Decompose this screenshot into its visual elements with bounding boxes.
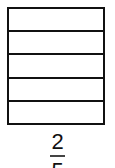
fraction-bar <box>50 155 65 157</box>
model-section-2 <box>9 32 103 55</box>
model-section-4 <box>9 79 103 102</box>
model-section-5 <box>9 102 103 123</box>
fraction-label: 2 5 <box>0 131 115 168</box>
model-section-3 <box>9 55 103 78</box>
fraction-numerator: 2 <box>0 131 115 153</box>
fraction-denominator: 5 <box>0 160 115 168</box>
model-section-1 <box>9 9 103 32</box>
fraction-model-rectangle <box>7 7 105 125</box>
